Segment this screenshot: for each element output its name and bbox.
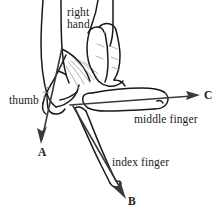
knuckles-lower-curve (93, 72, 123, 86)
label-right-hand-line2: hand (67, 18, 90, 30)
crease-b (110, 46, 117, 49)
forearm-outer-edge (41, 0, 56, 107)
middle-finger-base-join (83, 93, 92, 108)
tendon-line-5 (66, 66, 79, 89)
crease-c (111, 57, 118, 60)
middle-finger-nail-crease (157, 101, 163, 103)
thumbnail-line-2 (43, 92, 49, 93)
label-index-finger: index finger (112, 156, 169, 168)
crease-d (96, 56, 103, 59)
middle-finger-bottom-edge (88, 108, 154, 111)
finger-separation-line (105, 33, 108, 82)
vector-arrow-b (73, 106, 126, 199)
vector-b-shaft (73, 106, 122, 191)
curled-fingers-group (87, 0, 125, 86)
hand-palm-edge (56, 85, 79, 107)
vector-c-shaft (70, 96, 192, 105)
label-middle-finger: middle finger (134, 113, 198, 125)
label-right-hand: right hand (67, 6, 90, 31)
ring-finger-right-edge (114, 30, 120, 80)
label-vector-c: C (204, 89, 212, 101)
vector-arrow-a (37, 48, 62, 144)
label-right-hand-line1: right (67, 6, 90, 18)
label-vector-b: B (128, 195, 136, 207)
vector-c-head (186, 91, 200, 100)
label-vector-a: A (38, 146, 46, 158)
crease-a (97, 44, 104, 47)
vector-a-shaft (42, 48, 62, 139)
forearm-group (41, 0, 69, 107)
hand-drawing (0, 0, 221, 218)
thumb-tip (43, 103, 46, 114)
right-hand-rule-figure: right hand thumb middle finger index fin… (0, 0, 221, 218)
crease-e (112, 67, 119, 70)
ring-finger-outer-edge (110, 0, 113, 46)
index-finger-right-edge (86, 111, 116, 181)
vector-b-head (113, 180, 126, 199)
index-finger-group (75, 107, 121, 187)
vector-a-head (37, 126, 47, 144)
label-thumb: thumb (9, 94, 39, 106)
middle-finger-top-edge (92, 88, 164, 93)
